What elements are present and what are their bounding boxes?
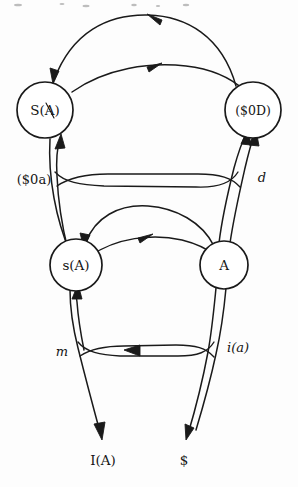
arrowhead-mid-inner	[138, 234, 153, 243]
edge-top-inner-arc	[72, 63, 244, 92]
edge-mid-inner-arc	[90, 234, 216, 256]
arrowhead-top-inner	[147, 63, 162, 72]
node-top-left-label: S(A)	[30, 102, 60, 118]
arrowhead-terminal-left	[94, 422, 105, 440]
edge-middle-horizontal	[55, 172, 240, 187]
terminal-label-left: I(A)	[90, 452, 116, 468]
arrowhead-lower-horizontal	[124, 345, 140, 356]
node-bottom-right-label: A	[218, 257, 229, 273]
edge-lower-horizontal	[78, 342, 214, 357]
diagram-canvas: S(A) ($0D) s(A) A ($0a) d m i(a) I(A) $	[0, 0, 298, 487]
edge-top-outer-arc	[50, 14, 236, 86]
edge-label-left-vertical: ($0a)	[17, 172, 51, 187]
node-top-right[interactable]: ($0D)	[225, 82, 281, 138]
terminal-label-right: $	[180, 452, 189, 468]
edge-label-right-vertical: d	[258, 170, 266, 185]
node-top-left[interactable]: S(A)	[17, 82, 73, 138]
scan-artifacts	[14, 3, 189, 7]
edge-lower-left-rail	[70, 284, 105, 440]
edge-label-lower-right: i(a)	[227, 340, 249, 355]
edge-mid-outer-arc	[80, 206, 214, 248]
edge-label-lower-left: m	[56, 344, 68, 359]
node-bottom-right[interactable]: A	[200, 241, 248, 289]
diagram-drawing: S(A) ($0D) s(A) A ($0a) d m i(a) I(A) $	[0, 0, 298, 487]
node-top-right-label: ($0D)	[235, 103, 271, 118]
node-bottom-left-label: s(A)	[62, 257, 89, 273]
edge-lower-right-rail	[185, 288, 226, 440]
node-bottom-left[interactable]: s(A)	[50, 239, 102, 291]
arrowhead-terminal-right	[185, 424, 194, 440]
arrowhead-top-outer-end	[50, 68, 59, 84]
